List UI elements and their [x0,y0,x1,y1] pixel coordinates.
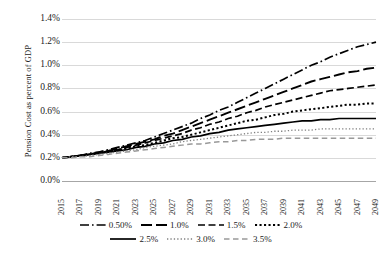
x-tick-label: 2031 [206,199,214,215]
legend-label: 2.5% [139,235,158,244]
y-tick-label: 0.2% [40,153,60,163]
x-tick-label: 2025 [150,199,158,215]
series-line-2-5pct [62,119,376,158]
x-tick-label: 2041 [298,199,306,215]
legend-swatch-icon [255,221,281,229]
legend-item[interactable]: 0.50% [80,221,132,230]
legend-label: 1.0% [170,221,189,230]
legend-swatch-icon [224,235,250,243]
x-tick-label: 2049 [372,199,380,215]
chart-legend: 0.50%1.0%1.5%2.0%2.5%3.0%3.5% [0,218,382,246]
plot-area [62,19,376,181]
legend-row: 2.5%3.0%3.5% [0,232,382,246]
x-tick-label: 2047 [354,199,362,215]
series-line-1-5pct [62,85,376,158]
x-tick-label: 2033 [224,199,232,215]
x-tick-label: 2045 [335,199,343,215]
legend-label: 1.5% [227,221,246,230]
x-tick-label: 2037 [261,199,269,215]
legend-item[interactable]: 2.0% [255,221,303,230]
pension-cost-chart: Pension Cost as percent of GDP 1.4%1.2%1… [0,0,382,266]
series-canvas [62,19,376,181]
x-tick-label: 2039 [280,199,288,215]
legend-label: 3.5% [253,235,272,244]
legend-item[interactable]: 3.0% [167,235,215,244]
x-tick-label: 2015 [58,199,66,215]
legend-swatch-icon [80,221,106,229]
x-tick-label: 2027 [169,199,177,215]
legend-swatch-icon [110,235,136,243]
series-line-0-50pct [62,42,376,158]
x-tick-label: 2023 [132,199,140,215]
y-tick-label: 1.0% [40,60,60,70]
y-tick-label: 0.4% [40,130,60,140]
y-tick-label: 1.4% [40,14,60,24]
legend-swatch-icon [141,221,167,229]
y-tick-label: 0.8% [40,83,60,93]
legend-item[interactable]: 1.5% [198,221,246,230]
x-tick-label: 2021 [113,199,121,215]
legend-row: 0.50%1.0%1.5%2.0% [0,218,382,232]
x-tick-label: 2017 [76,199,84,215]
legend-label: 3.0% [196,235,215,244]
y-axis-tick-labels: 1.4%1.2%1.0%0.8%0.6%0.4%0.2%0.0% [22,13,60,187]
x-tick-label: 2035 [243,199,251,215]
x-tick-label: 2019 [95,199,103,215]
legend-label: 2.0% [284,221,303,230]
legend-item[interactable]: 3.5% [224,235,272,244]
legend-label: 0.50% [109,221,132,230]
x-tick-label: 2029 [187,199,195,215]
legend-swatch-icon [167,235,193,243]
y-tick-label: 0.6% [40,107,60,117]
y-tick-label: 0.0% [40,176,60,186]
x-axis-tick-labels: 2015201720192021202320252027202920312033… [62,183,376,215]
legend-swatch-icon [198,221,224,229]
x-axis-line [62,181,376,182]
y-tick-label: 1.2% [40,37,60,47]
legend-item[interactable]: 2.5% [110,235,158,244]
series-line-1-0pct [62,68,376,158]
legend-item[interactable]: 1.0% [141,221,189,230]
x-tick-label: 2043 [317,199,325,215]
series-line-3-5pct [62,138,376,158]
